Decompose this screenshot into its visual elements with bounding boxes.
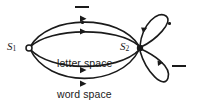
diagram-canvas: S1 S2 letter space word space [0, 0, 198, 109]
self-loop-dash-path [140, 49, 169, 82]
node-label-s2: S2 [120, 41, 129, 53]
self-loop-label-dot [168, 22, 171, 25]
node-label-s1: S1 [7, 41, 16, 53]
edge-label-dot-second [81, 21, 84, 24]
self-loop-label-dash [172, 65, 186, 67]
edge-label-letter-space: letter space [57, 58, 112, 69]
node-s1-circle[interactable] [26, 45, 32, 51]
edge-dot-arrowhead [80, 28, 87, 34]
self-loop-dot-arrowhead [141, 28, 147, 34]
edge-label-dash-top [75, 6, 89, 8]
node-s2-circle[interactable] [137, 45, 142, 50]
edge-word-space-arrowhead [80, 81, 87, 87]
edge-label-word-space: word space [57, 89, 112, 100]
